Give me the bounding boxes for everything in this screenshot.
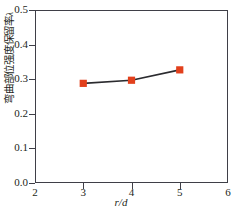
y-tick-label-wrap: 0.1 bbox=[0, 141, 28, 153]
y-tick-mark bbox=[29, 148, 35, 149]
y-tick-label-wrap: 0.5 bbox=[0, 3, 28, 15]
plot-area bbox=[35, 10, 228, 183]
y-tick-label: 0.5 bbox=[2, 3, 28, 15]
chart-figure: 弯曲部位强度保留率λ 0.00.10.20.30.40.5 23456 r/d bbox=[0, 0, 242, 214]
x-axis-label: r/d bbox=[0, 196, 242, 208]
y-tick-label: 0.2 bbox=[2, 107, 28, 119]
y-tick-mark bbox=[29, 79, 35, 80]
y-tick-mark bbox=[29, 183, 35, 184]
y-tick-label-wrap: 0.3 bbox=[0, 72, 28, 84]
y-tick-mark bbox=[29, 10, 35, 11]
y-tick-label-wrap: 0.4 bbox=[0, 38, 28, 50]
y-tick-mark bbox=[29, 114, 35, 115]
y-axis-label-text: 弯曲部位强度保留率 bbox=[3, 16, 15, 103]
y-tick-label: 0.3 bbox=[2, 72, 28, 84]
y-axis-label: 弯曲部位强度保留率λ bbox=[1, 0, 17, 123]
y-tick-mark bbox=[29, 45, 35, 46]
y-tick-label: 0.1 bbox=[2, 141, 28, 153]
y-tick-label: 0.4 bbox=[2, 38, 28, 50]
y-tick-label-wrap: 0.2 bbox=[0, 107, 28, 119]
